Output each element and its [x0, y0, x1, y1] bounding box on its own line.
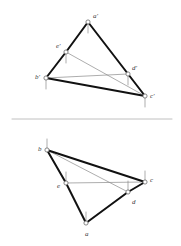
vertex-markers-layer [44, 20, 147, 225]
vertex-marker-b [45, 148, 49, 152]
principal-edge-a-prime-e-prime [66, 22, 88, 52]
construction-edge-e-c [66, 182, 145, 183]
vertex-marker-c-prime [143, 94, 147, 98]
vertex-label-b: b [38, 146, 42, 153]
vertex-marker-b-prime [44, 76, 48, 80]
descriptive-geometry-figure: a'e'b'd'c'becda [0, 0, 181, 246]
vertex-label-e-prime: e' [56, 43, 61, 50]
vertex-marker-d [126, 190, 130, 194]
vertex-label-c: c [150, 177, 153, 184]
vertex-label-d: d [132, 199, 136, 206]
construction-edge-b-prime-d-prime [46, 74, 128, 78]
vertex-marker-c [143, 180, 147, 184]
vertex-marker-d-prime [126, 72, 130, 76]
vertex-label-a-prime: a' [93, 13, 98, 20]
vertex-label-d-prime: d' [132, 65, 137, 72]
principal-edge-a-d [86, 192, 128, 223]
vertex-marker-a [84, 221, 88, 225]
principal-edge-a-prime-c-prime [88, 22, 145, 96]
vertex-marker-e-prime [64, 50, 68, 54]
vertex-label-e: e [57, 183, 60, 190]
vertex-label-a: a [85, 231, 89, 238]
vertex-marker-a-prime [86, 20, 90, 24]
vertex-label-b-prime: b' [35, 74, 40, 81]
vertex-marker-e [64, 181, 68, 185]
principal-edge-d-c [128, 182, 145, 192]
projection-drawing-canvas [0, 0, 181, 246]
principal-edge-b-prime-c-prime [46, 78, 145, 96]
principal-edge-e-a [66, 183, 86, 223]
vertex-label-c-prime: c' [150, 93, 155, 100]
principal-edge-e-prime-b-prime [46, 52, 66, 78]
